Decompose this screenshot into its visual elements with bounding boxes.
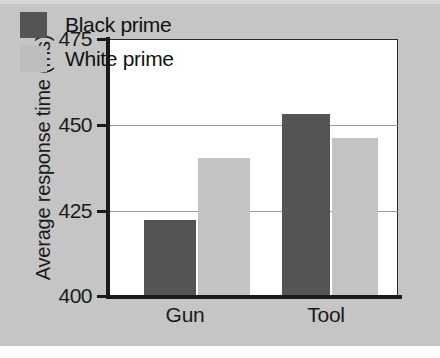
y-tick-mark-400 — [97, 295, 108, 298]
x-tick-label-gun: Gun — [125, 303, 245, 327]
legend-swatch-black-prime-icon — [20, 12, 47, 38]
y-tick-label-425: 425 — [34, 199, 92, 223]
legend-label-black-prime: Black prime — [65, 13, 171, 37]
legend-label-white-prime: White prime — [65, 47, 174, 71]
bar-gun-black-prime — [144, 220, 196, 295]
legend-item-black-prime: Black prime — [20, 8, 215, 42]
y-tick-label-400-wrap: 400 — [28, 284, 92, 306]
bar-tool-black-prime — [282, 114, 330, 295]
bars-layer — [110, 39, 398, 295]
legend: Black prime White prime — [20, 8, 215, 76]
y-tick-mark-425 — [97, 210, 108, 213]
x-tick-label-tool: Tool — [266, 303, 386, 327]
bar-tool-white-prime — [332, 138, 378, 295]
y-tick-label-400: 400 — [34, 284, 92, 308]
y-tick-mark-450 — [97, 124, 108, 127]
bar-gun-white-prime — [198, 158, 250, 295]
page-edge-bottom — [0, 346, 440, 358]
y-tick-label-450: 450 — [34, 113, 92, 137]
y-tick-label-425-wrap: 425 — [28, 199, 92, 221]
y-tick-label-450-wrap: 450 — [28, 113, 92, 135]
figure-bar-chart: Average response time (ms) 475 450 425 4… — [0, 0, 440, 358]
y-axis-line — [106, 37, 110, 299]
page-edge-top — [0, 0, 440, 4]
legend-item-white-prime: White prime — [20, 42, 215, 76]
legend-swatch-white-prime-icon — [20, 46, 47, 72]
x-axis-line — [106, 295, 402, 299]
